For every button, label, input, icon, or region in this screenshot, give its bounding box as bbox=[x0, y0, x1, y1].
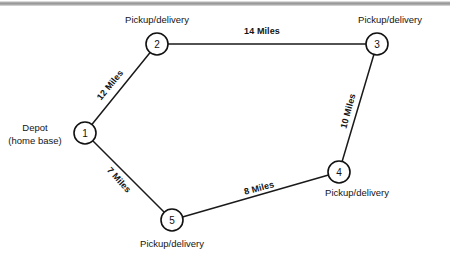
diagram-canvas: 12 Miles 14 Miles 10 Miles 7 Miles 8 Mil… bbox=[0, 0, 450, 255]
node-5-stop[interactable]: 5 bbox=[161, 209, 183, 231]
edge-5-4-line bbox=[172, 172, 339, 220]
node-4-stop[interactable]: 4 bbox=[328, 161, 350, 183]
node-5-label: Pickup/delivery bbox=[140, 238, 204, 249]
edge-label-5-4: 8 Miles bbox=[243, 179, 275, 197]
network-graph: 12 Miles 14 Miles 10 Miles 7 Miles 8 Mil… bbox=[0, 0, 450, 255]
node-1-label-line2: (home base) bbox=[8, 135, 61, 146]
edge-1-5-line bbox=[85, 133, 172, 220]
node-1-depot[interactable]: 1 bbox=[74, 122, 96, 144]
edge-1-2-line bbox=[85, 44, 157, 133]
node-2-number: 2 bbox=[154, 39, 160, 50]
edge-label-2-3: 14 Miles bbox=[244, 26, 280, 36]
node-2-label: Pickup/delivery bbox=[125, 14, 189, 25]
edge-label-3-4: 10 Miles bbox=[339, 92, 358, 129]
node-4-number: 4 bbox=[336, 167, 342, 178]
node-group: 1 2 3 4 5 bbox=[74, 33, 388, 231]
edge-label-group: 12 Miles 14 Miles 10 Miles 7 Miles 8 Mil… bbox=[95, 26, 358, 197]
node-2-stop[interactable]: 2 bbox=[146, 33, 168, 55]
node-3-stop[interactable]: 3 bbox=[366, 33, 388, 55]
node-3-label: Pickup/delivery bbox=[358, 14, 422, 25]
node-4-label: Pickup/delivery bbox=[325, 187, 389, 198]
node-1-number: 1 bbox=[82, 128, 88, 139]
edge-label-1-2: 12 Miles bbox=[95, 68, 125, 102]
node-3-number: 3 bbox=[374, 39, 380, 50]
node-text-label-group: Depot (home base) Pickup/delivery Pickup… bbox=[8, 14, 422, 249]
edge-label-1-5: 7 Miles bbox=[105, 165, 133, 195]
node-5-number: 5 bbox=[169, 215, 175, 226]
node-1-label-line1: Depot bbox=[22, 122, 48, 133]
